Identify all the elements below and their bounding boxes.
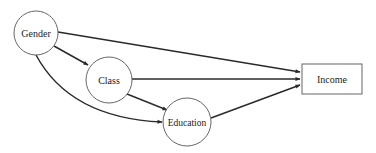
path-diagram: Gender Class Education Income <box>0 0 376 153</box>
node-education: Education <box>163 98 211 146</box>
gender-label: Gender <box>21 28 51 39</box>
edge-gender-class <box>54 46 88 65</box>
class-label: Class <box>98 75 120 86</box>
node-class: Class <box>86 57 132 103</box>
edge-education-income <box>211 85 300 118</box>
node-income: Income <box>302 64 362 94</box>
education-label: Education <box>168 118 207 128</box>
edge-class-education <box>127 94 167 110</box>
income-label: Income <box>317 74 348 85</box>
node-gender: Gender <box>14 11 58 55</box>
